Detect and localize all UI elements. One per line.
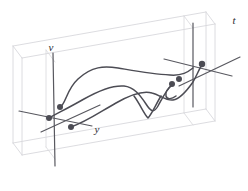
marker-2: [46, 115, 52, 121]
box-edge-back-top: [13, 12, 206, 46]
slice-plane-left-bottom: [46, 147, 55, 159]
box-edge-depth-top-left: [13, 46, 22, 58]
box-edge-depth-top-right: [206, 12, 215, 24]
marker-1: [57, 104, 63, 110]
slice-plane-right-top: [184, 16, 193, 28]
slice-plane-right-bottom: [184, 113, 193, 125]
axis-labels: vty: [49, 14, 237, 135]
box-edge-back-bottom: [13, 109, 206, 143]
box-edge-depth-bottom-left: [13, 143, 22, 155]
v-axis-label: v: [49, 41, 54, 53]
box-edge-front-bottom: [22, 121, 215, 155]
marker-3: [68, 124, 74, 130]
box-edge-depth-bottom-right: [206, 109, 215, 121]
y-axis-label: y: [94, 123, 100, 135]
marker-6: [199, 61, 205, 67]
figure-root: vty: [0, 0, 248, 191]
curve-middle: [49, 85, 172, 118]
marker-5: [169, 81, 175, 87]
t-axis-label: t: [232, 14, 236, 26]
diagram-canvas: vty: [0, 0, 248, 191]
marker-4: [176, 76, 182, 82]
